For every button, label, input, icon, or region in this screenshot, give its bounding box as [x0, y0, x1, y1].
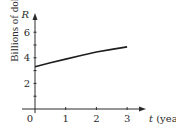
x-axis-title: t (years)	[149, 113, 176, 124]
y-axis-arrow-icon	[33, 13, 38, 20]
origin-label: 0	[27, 113, 33, 124]
chart-canvas: 1230246Rt (years)	[0, 0, 176, 139]
line-chart: 1230246Rt (years) Billions of dollars	[0, 0, 176, 139]
x-tick-label: 1	[63, 113, 69, 124]
y-tick-label: 2	[24, 78, 30, 89]
y-axis-title: Billions of dollars	[8, 0, 22, 62]
x-tick-label: 3	[124, 113, 130, 124]
x-axis-arrow-icon	[139, 107, 146, 112]
data-line	[35, 47, 127, 67]
y-tick-label: 4	[24, 52, 30, 63]
y-tick-label: 6	[24, 27, 30, 38]
x-tick-label: 2	[93, 113, 99, 124]
